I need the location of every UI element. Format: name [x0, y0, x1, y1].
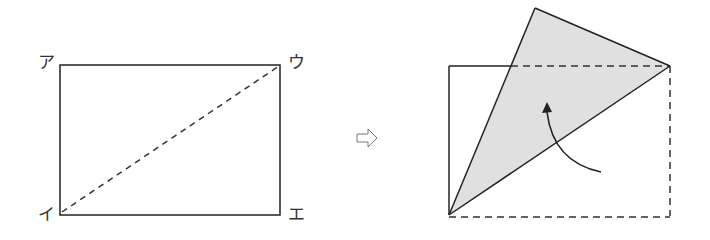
left-rectangle [60, 65, 280, 215]
label-bottom-left: イ [38, 206, 55, 223]
right-folded-figure [449, 8, 670, 217]
label-top-left: ア [38, 54, 55, 71]
label-bottom-right: エ [288, 206, 305, 223]
transition-arrow-icon [357, 129, 377, 147]
label-top-right: ウ [288, 54, 305, 71]
fold-diagram [0, 0, 710, 240]
folded-triangle [449, 8, 670, 215]
diagonal-fold-line [62, 66, 279, 212]
